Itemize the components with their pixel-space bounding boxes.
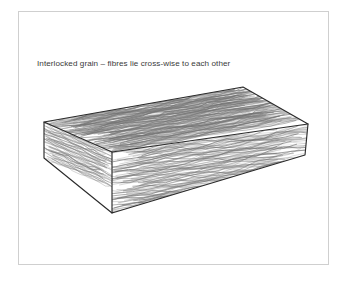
figure-root: Interlocked grain – fibres lie cross-wis… — [0, 0, 348, 281]
timber-block-illustration — [0, 0, 348, 281]
